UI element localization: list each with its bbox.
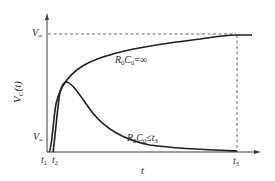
t1-sub: 1 [44, 159, 47, 166]
y-label-tail: (t) [11, 81, 23, 91]
x-axis-arrow-icon [254, 150, 261, 154]
y-axis-label: VC(t) [12, 81, 25, 103]
upper-tail: =∞ [134, 54, 147, 65]
t3-sub: 3 [236, 160, 239, 167]
lower-tail: ≤t [146, 132, 154, 143]
v-infinity-label: V∞ [32, 28, 43, 40]
lower-t-sub: 3 [155, 137, 158, 144]
upper-curve-label: R0C0=∞ [115, 55, 147, 67]
t3-label: t3 [233, 156, 239, 168]
y-label-sub: C [17, 92, 25, 97]
y-label-main: V [11, 96, 23, 103]
x-label-text: t [141, 164, 144, 176]
t1-label: t1 [41, 155, 47, 167]
lower-curve-label: R0C0≤t3 [127, 133, 158, 145]
t2-label: t2 [52, 155, 58, 167]
t2-sub: 2 [55, 159, 58, 166]
x-axis-label: t [141, 165, 144, 176]
y-axis-arrow-icon [45, 13, 49, 20]
v-equal-sub: = [39, 136, 43, 143]
v-infinity-sub: ∞ [38, 32, 43, 39]
v-equal-label: V= [33, 132, 43, 144]
